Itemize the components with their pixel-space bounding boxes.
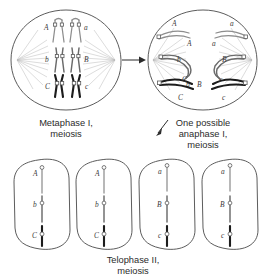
allele-label-C: C <box>182 75 187 84</box>
centromere <box>71 55 74 58</box>
allele-label-a: a <box>212 39 216 48</box>
centromere <box>244 35 247 38</box>
centromere <box>60 23 63 26</box>
telophase-cell-2: A b C <box>76 159 132 249</box>
metaphase-caption-line1: Metaphase I, <box>39 118 93 128</box>
anaphase-caption-line3: meiosis <box>187 140 219 150</box>
centromere <box>40 166 44 170</box>
allele-label-C: C <box>178 93 183 102</box>
metaphase-cell-panel: A a b B <box>11 10 121 139</box>
telophase-cell-4: a B c <box>202 159 258 249</box>
allele-label-b: b <box>177 55 181 64</box>
anaphase-cell-panel: A A a a b b <box>148 10 257 150</box>
allele-label-a: a <box>230 19 234 28</box>
telophase-caption-line1: Telophase II, <box>107 255 160 265</box>
centromere <box>228 201 232 205</box>
allele-label-A: A <box>186 39 192 48</box>
allele-label-B-upper: B <box>84 55 89 64</box>
anaphase-caption-line1: One possible <box>176 118 230 128</box>
allele-label-B-upper: B <box>220 200 225 209</box>
meiosis-diagram: A a b B <box>0 0 266 278</box>
metaphase-cell-membrane <box>11 10 121 110</box>
centromere <box>55 82 58 85</box>
centromere <box>165 201 169 205</box>
centromere <box>165 164 169 168</box>
centromere <box>71 23 74 26</box>
allele-label-b: b <box>45 55 49 64</box>
allele-label-b: b <box>95 200 99 209</box>
allele-label-C: C <box>45 82 50 91</box>
telophase-cell-1: A b C <box>14 159 70 249</box>
allele-label-a: a <box>221 167 225 176</box>
centromere <box>242 55 245 58</box>
centromere <box>77 23 80 26</box>
centromere <box>159 55 162 58</box>
centromere <box>60 82 63 85</box>
allele-label-A: A <box>32 169 38 178</box>
centromere <box>165 232 169 236</box>
centromere <box>40 201 44 205</box>
centromere <box>102 166 106 170</box>
arrow-metaphase-to-anaphase <box>122 57 146 64</box>
centromere <box>77 82 80 85</box>
allele-label-A: A <box>171 19 177 28</box>
allele-label-A: A <box>94 169 100 178</box>
centromere <box>102 201 106 205</box>
allele-label-a: a <box>158 167 162 176</box>
anaphase-cell-membrane <box>148 10 257 110</box>
arrow-anaphase-to-telophase <box>156 120 168 136</box>
allele-label-B-upper: B <box>197 80 202 89</box>
metaphase-caption-line2: meiosis <box>50 129 82 139</box>
allele-label-C: C <box>32 231 37 240</box>
centromere <box>158 81 162 85</box>
telophase-caption-line2: meiosis <box>117 266 149 276</box>
allele-label-b: b <box>33 200 37 209</box>
allele-label-A: A <box>43 23 49 32</box>
centromere <box>54 23 57 26</box>
anaphase-caption-line2: anaphase I, <box>179 129 228 139</box>
centromere <box>77 55 80 58</box>
centromere <box>72 82 75 85</box>
centromere <box>102 232 106 236</box>
centromere <box>61 55 64 58</box>
centromere <box>244 81 248 85</box>
centromere <box>157 35 160 38</box>
telophase-cell-3: a B c <box>139 159 195 249</box>
centromere <box>228 232 232 236</box>
allele-label-a: a <box>84 23 88 32</box>
centromere <box>228 164 232 168</box>
centromere <box>55 55 58 58</box>
allele-label-B-upper: B <box>222 55 227 64</box>
allele-label-B-upper: B <box>157 200 162 209</box>
centromere <box>40 232 44 236</box>
allele-label-C: C <box>94 231 99 240</box>
